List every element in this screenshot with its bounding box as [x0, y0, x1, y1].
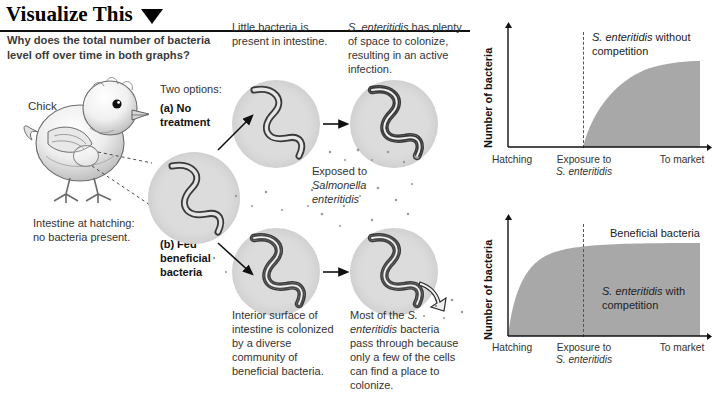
visualize-this-figure: Visualize This Why does the total number…: [0, 0, 712, 402]
bacteria-outflow-arrow-icon: [418, 278, 454, 312]
chart-top-tick-exposure-line2: S. enteritidis: [546, 166, 622, 178]
caption-a2-italic: S. enteritidis: [348, 21, 409, 33]
chick-label: Chick: [28, 100, 57, 112]
chart-top-without-competition: Number of bacteria S. enteritidis withou…: [470, 8, 712, 188]
caption-b2-pre: Most of the: [350, 309, 407, 321]
chart-bottom-annotation-competition: S. enteritidis with competition: [602, 284, 702, 312]
exposure-caption: Exposed to Salmonella enteritidis: [312, 164, 412, 206]
page-title: Visualize This: [6, 2, 133, 27]
chart-bottom-tick-exposure: Exposure to S. enteritidis: [546, 342, 622, 366]
caption-a2: S. enteritidis has plenty of space to co…: [348, 20, 468, 76]
caption-b2: Most of the S. enteritidis bacteria pass…: [350, 308, 460, 392]
intestine-site-marker: [73, 145, 99, 167]
exposure-line-2: Salmonella: [312, 178, 412, 192]
intestine-circle-a1-little-bacteria: [232, 80, 320, 168]
chart-top-annotation: S. enteritidis without competition: [592, 30, 707, 58]
chick-illustration: [18, 70, 168, 205]
caption-b1: Interior surface of intestine is coloniz…: [232, 308, 344, 378]
triangle-down-icon: [141, 9, 163, 24]
figure-question: Why does the total number of bacteria le…: [7, 33, 225, 62]
chart-top-tick-exposure-line1: Exposure to: [546, 154, 622, 166]
chart-bottom-tick-hatching: Hatching: [482, 342, 542, 354]
two-options-label: Two options:: [160, 82, 222, 96]
exposure-line-1: Exposed to: [312, 164, 412, 178]
intestine-circle-a2-active-infection: [350, 80, 438, 168]
chart-bottom-tick-exposure-line1: Exposure to: [546, 342, 622, 354]
caption-a1: Little bacteria is present in intestine.: [232, 20, 328, 48]
chart-bottom-annotation-beneficial: Beneficial bacteria: [610, 226, 712, 240]
chart-top-tick-hatching: Hatching: [482, 154, 542, 166]
chart-bottom-with-competition: Number of bacteria Beneficial bacteria S…: [470, 200, 712, 375]
chart-top-tick-market: To market: [653, 154, 711, 166]
chart-top-tick-exposure: Exposure to S. enteritidis: [546, 154, 622, 178]
intestine-circle-b1-colonized: [232, 228, 320, 316]
exposure-line-3: enteritidis: [312, 192, 412, 206]
chart-bottom-axes: [470, 200, 712, 355]
intestine-hatching-caption: Intestine at hatching: no bacteria prese…: [33, 216, 138, 244]
chart-bottom-tick-exposure-line2: S. enteritidis: [546, 354, 622, 366]
figure-header: Visualize This: [6, 2, 163, 27]
option-a-label: (a) No treatment: [160, 101, 230, 129]
intestine-circle-hatching: [148, 152, 240, 244]
chart-bottom-tick-market: To market: [653, 342, 711, 354]
chart-top-annotation-italic: S. enteritidis: [592, 31, 653, 43]
chart-bottom-annotation-italic: S. enteritidis: [602, 285, 663, 297]
